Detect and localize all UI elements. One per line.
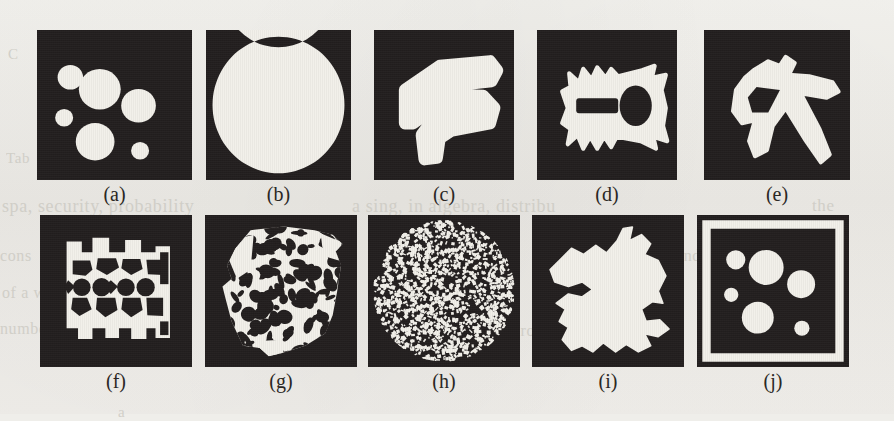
figure-panel-a <box>37 30 192 180</box>
panel-shape-h <box>368 215 520 367</box>
figure-panel-d <box>537 30 677 180</box>
figure-panel-e <box>704 30 850 180</box>
panel-caption-c: (c) <box>374 184 514 204</box>
panel-caption-f: (f) <box>40 371 192 391</box>
figure-panel-g <box>205 215 357 367</box>
panel-shape-c <box>374 30 514 180</box>
panel-shape-a <box>37 30 192 180</box>
panel-shape-g <box>205 215 357 367</box>
panel-shape-f <box>40 215 192 367</box>
panel-shape-d <box>537 30 677 180</box>
panel-shape-j <box>697 215 849 367</box>
panel-shape-b <box>206 30 351 180</box>
figure-panel-i <box>532 215 684 367</box>
figure-panel-c <box>374 30 514 180</box>
figure-panel-b <box>206 30 351 180</box>
panel-caption-j: (j) <box>697 371 849 391</box>
panel-caption-i: (i) <box>532 371 684 391</box>
figure-panel-j <box>697 215 849 367</box>
panel-caption-g: (g) <box>205 371 357 391</box>
figure-panel-h <box>368 215 520 367</box>
panel-shape-e <box>704 30 850 180</box>
panel-caption-h: (h) <box>368 371 520 391</box>
panel-shape-i <box>532 215 684 367</box>
panel-caption-d: (d) <box>537 184 677 204</box>
panel-caption-e: (e) <box>704 184 850 204</box>
panel-caption-a: (a) <box>37 184 192 204</box>
figure-panel-f <box>40 215 192 367</box>
panel-caption-b: (b) <box>206 184 351 204</box>
